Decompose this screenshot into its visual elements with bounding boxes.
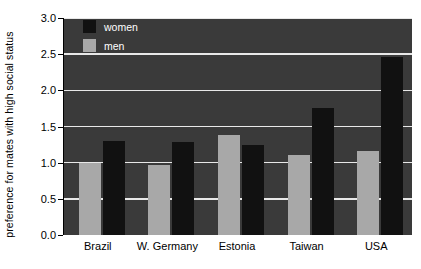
bar-taiwan-men — [288, 155, 310, 235]
y-axis-tick-label: 2.0 — [18, 84, 56, 96]
y-axis-tick-label: 0.0 — [18, 229, 56, 241]
legend-swatch-men — [83, 39, 96, 52]
y-axis-tick-label: 3.0 — [18, 12, 56, 24]
bar-w-germany-women — [172, 142, 194, 235]
legend-swatch-women — [83, 20, 96, 33]
legend-item-women: women — [83, 19, 138, 34]
y-axis-tick-label: 0.5 — [18, 193, 56, 205]
bar-estonia-women — [242, 145, 264, 235]
bar-brazil-men — [79, 163, 101, 235]
gridline — [64, 126, 412, 127]
legend-item-men: men — [83, 38, 124, 53]
y-axis-tick-label: 1.0 — [18, 157, 56, 169]
legend-label-men: men — [104, 40, 124, 52]
x-axis-tick-label: Taiwan — [272, 240, 342, 252]
y-axis-tick-label: 2.5 — [18, 48, 56, 60]
bar-estonia-men — [218, 135, 240, 235]
x-axis-tick-label: Brazil — [63, 240, 133, 252]
gridline — [64, 90, 412, 91]
bar-brazil-women — [103, 141, 125, 235]
chart-legend: womenmen — [83, 19, 191, 54]
x-axis-tick-label: USA — [341, 240, 411, 252]
y-axis-tick-label: 1.5 — [18, 121, 56, 133]
bar-usa-men — [357, 151, 379, 235]
x-axis: BrazilW. GermanyEstoniaTaiwanUSA — [63, 236, 411, 258]
bar-taiwan-women — [312, 108, 334, 235]
x-axis-tick-label: W. Germany — [133, 240, 203, 252]
x-axis-tick-label: Estonia — [202, 240, 272, 252]
bar-w-germany-men — [148, 165, 170, 235]
y-axis: 0.00.51.01.52.02.53.0 — [18, 0, 63, 269]
bar-chart-figure: preference for mates with high social st… — [0, 0, 421, 269]
bar-usa-women — [381, 57, 403, 235]
legend-label-women: women — [104, 21, 138, 33]
y-axis-label: preference for mates with high social st… — [0, 0, 18, 269]
